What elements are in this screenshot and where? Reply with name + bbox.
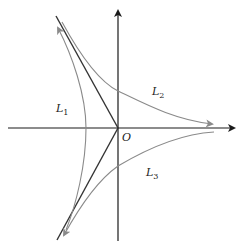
curve-label-l1-main: L bbox=[55, 102, 63, 115]
curve-label-l3-sub: 3 bbox=[153, 172, 158, 181]
curve-l3 bbox=[64, 132, 214, 235]
curve-l1 bbox=[58, 28, 86, 230]
curve-label-l3: L3 bbox=[145, 166, 158, 181]
curve-label-l1: L1 bbox=[55, 102, 68, 117]
curve-label-l2-main: L bbox=[151, 85, 159, 98]
lower-ray-line bbox=[57, 128, 118, 240]
curve-label-l2-sub: 2 bbox=[159, 91, 164, 100]
curve-label-l1-sub: 1 bbox=[63, 108, 68, 117]
origin-label: O bbox=[122, 131, 131, 144]
diagram-canvas: O L1 L2 L3 bbox=[0, 0, 243, 249]
curve-label-l3-main: L bbox=[145, 166, 153, 179]
curve-label-l2: L2 bbox=[151, 85, 164, 100]
